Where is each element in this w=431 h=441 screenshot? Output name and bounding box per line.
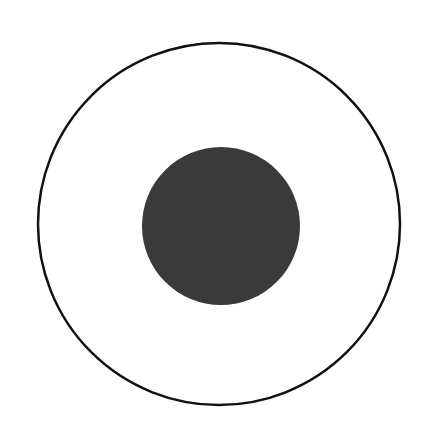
inner-disc	[142, 147, 300, 305]
target-diagram	[0, 0, 431, 441]
